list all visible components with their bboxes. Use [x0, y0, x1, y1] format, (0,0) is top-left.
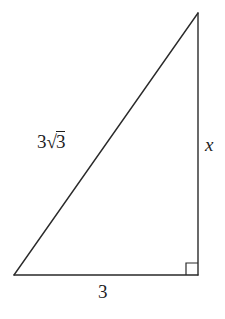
hypotenuse-label: 3√3	[37, 131, 65, 151]
right-triangle-diagram	[0, 0, 225, 319]
hypotenuse-coefficient: 3	[37, 131, 47, 152]
right-angle-marker	[186, 263, 198, 275]
base-label: 3	[98, 282, 108, 301]
hypotenuse-radicand: 3	[56, 131, 66, 151]
vertical-leg-label: x	[205, 135, 213, 154]
square-root: √3	[47, 131, 66, 151]
